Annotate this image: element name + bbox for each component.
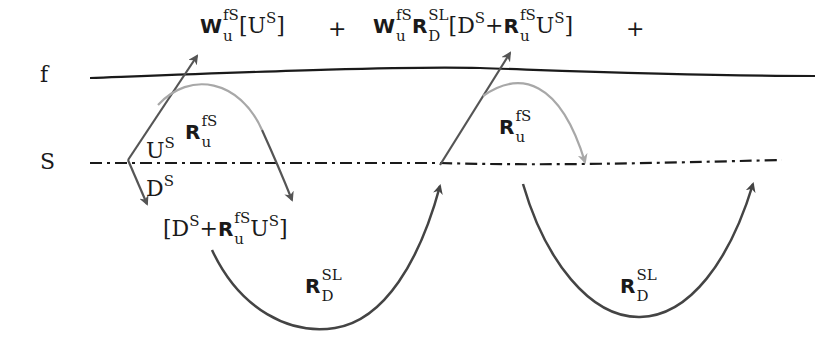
bracket-open: [ [449, 13, 458, 38]
r-fs-curve-left-tail [262, 130, 292, 200]
d-symbol: D [457, 13, 475, 38]
s-level-label: S [40, 151, 55, 173]
r-sup: fS [520, 8, 536, 23]
f-level-label: f [40, 64, 48, 86]
w-symbol: W [200, 14, 222, 38]
w-sup: fS [396, 8, 412, 23]
s-level-line [90, 160, 782, 164]
w-symbol: W [373, 14, 395, 38]
r-fs-label-right: RfSu [499, 113, 531, 143]
d-arrow-left [128, 160, 147, 204]
d-sup: S [475, 9, 485, 27]
plus-sign-2: + [626, 18, 644, 40]
d-s-label: DS [146, 178, 174, 200]
r-sub: u [520, 29, 536, 44]
r-sub: D [428, 29, 448, 44]
r-sup: SL [428, 8, 448, 23]
r-symbol: R [412, 14, 427, 38]
u-sup: S [554, 9, 564, 27]
u-arrow-right [440, 53, 510, 165]
u-s-label: US [146, 140, 175, 162]
plus-inner: + [485, 13, 503, 38]
w-sup: fS [223, 8, 239, 23]
equation-term-1: WfSu[US] [200, 12, 285, 42]
bracket-close: ] [565, 13, 574, 38]
w-sub: u [223, 29, 239, 44]
w-sub: u [396, 29, 412, 44]
u-symbol: U [536, 13, 555, 38]
r-symbol: R [504, 14, 519, 38]
bracket-close: ] [276, 13, 285, 38]
f-level-line [90, 68, 815, 78]
equation-term-2: WfSuRSLD[DS+RfSuUS] [373, 12, 573, 42]
u-symbol: U [247, 13, 266, 38]
diagram-canvas [0, 0, 826, 348]
r-fs-label-left: RfSu [185, 118, 217, 148]
r-sl-curve-left [212, 186, 440, 329]
r-sl-label-right: RSLD [620, 272, 657, 302]
u-sup: S [266, 9, 276, 27]
r-sl-label-left: RSLD [305, 272, 342, 302]
plus-sign-1: + [328, 18, 346, 40]
bracket-expression: [DS+RfSuUS] [163, 215, 288, 245]
